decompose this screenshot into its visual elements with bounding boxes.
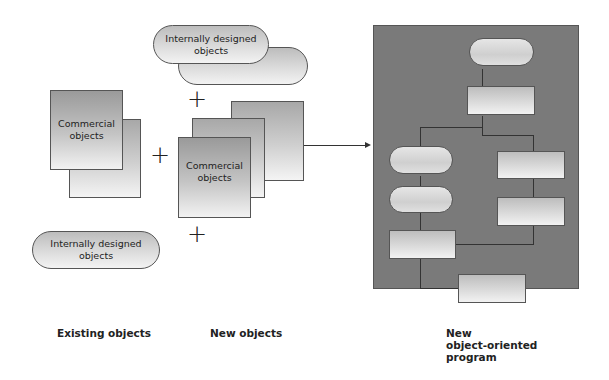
flowchart-process-right-1	[497, 151, 565, 179]
connector	[420, 127, 483, 128]
flowchart-terminator-left-1	[389, 146, 453, 174]
flowchart-terminator-top	[469, 38, 534, 66]
plus-sign-top: +	[187, 87, 207, 111]
arrow-line	[304, 145, 367, 146]
connector	[482, 127, 483, 135]
caption-program-line3: program	[446, 351, 537, 363]
existing-commercial-label-line2: objects	[51, 130, 122, 142]
existing-commercial-label-line1: Commercial	[51, 118, 122, 130]
connector	[533, 179, 534, 197]
connector	[482, 135, 534, 136]
flowchart-process-right-2	[497, 197, 565, 226]
plus-sign-middle: +	[150, 143, 170, 167]
diagram-canvas: Commercial objects Internally designed o…	[0, 0, 609, 380]
caption-existing-objects: Existing objects	[57, 327, 151, 339]
new-commercial-label-line2: objects	[179, 172, 250, 184]
connector	[420, 176, 421, 186]
connector	[420, 288, 458, 289]
caption-new-program: New object-oriented program	[446, 327, 537, 363]
existing-internal-label-line1: Internally designed	[33, 238, 159, 250]
new-commercial-card-front: Commercial objects	[178, 137, 251, 218]
new-internal-pill-front: Internally designed objects	[153, 25, 269, 64]
caption-new-objects: New objects	[210, 327, 282, 339]
existing-commercial-card-front: Commercial objects	[50, 90, 123, 170]
new-internal-label-line1: Internally designed	[154, 33, 268, 45]
flowchart-process-left-3	[389, 230, 456, 259]
existing-internal-label-line2: objects	[33, 250, 159, 262]
connector	[533, 135, 534, 151]
caption-program-line1: New	[446, 327, 537, 339]
caption-program-line2: object-oriented	[446, 339, 537, 351]
flowchart-process-1	[467, 86, 535, 115]
connector	[420, 259, 421, 288]
existing-internal-pill: Internally designed objects	[32, 231, 160, 269]
program-panel	[373, 25, 579, 289]
plus-sign-bottom: +	[187, 222, 207, 246]
new-internal-label-line2: objects	[154, 45, 268, 57]
arrow-head-icon	[365, 142, 371, 148]
flowchart-terminator-left-2	[389, 186, 453, 213]
flowchart-process-bottom	[458, 274, 526, 303]
connector	[420, 212, 421, 230]
connector	[482, 116, 483, 127]
connector	[455, 244, 534, 245]
new-commercial-label-line1: Commercial	[179, 160, 250, 172]
connector	[533, 226, 534, 244]
